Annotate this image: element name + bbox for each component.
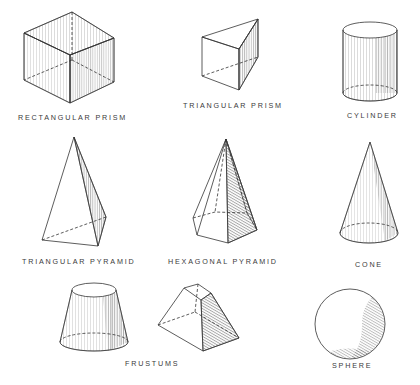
cylinder-shape [343, 22, 397, 101]
label-frustums: FRUSTUMS [125, 360, 179, 367]
label-hexagonal-pyramid: HEXAGONAL PYRAMID [168, 258, 278, 265]
cone-frustum-shape [60, 283, 128, 351]
sphere-shape [315, 289, 385, 359]
label-rectangular-prism: RECTANGULAR PRISM [18, 114, 127, 121]
rectangular-prism-shape [24, 12, 114, 103]
label-triangular-prism: TRIANGULAR PRISM [183, 102, 283, 109]
label-cone: CONE [355, 261, 383, 268]
triangular-prism-shape [202, 19, 258, 90]
hexagonal-pyramid-shape [193, 139, 257, 243]
pyramid-frustum-shape [158, 284, 239, 351]
geometric-solids-diagram: RECTANGULAR PRISM TRIANGULAR PRISM CYLIN… [0, 0, 420, 385]
cone-shape [340, 142, 398, 243]
label-sphere: SPHERE [332, 362, 372, 369]
triangular-pyramid-shape [42, 137, 106, 246]
label-cylinder: CYLINDER [347, 112, 398, 119]
label-triangular-pyramid: TRIANGULAR PYRAMID [22, 258, 135, 265]
